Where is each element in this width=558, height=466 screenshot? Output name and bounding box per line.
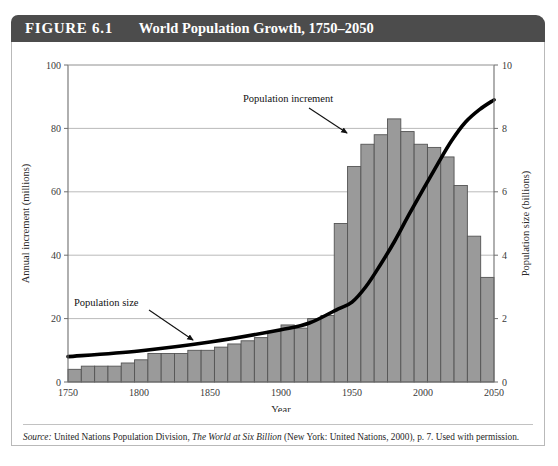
- bar: [214, 347, 227, 382]
- y-tick-label-left: 0: [56, 377, 61, 388]
- bar: [201, 350, 214, 382]
- y-tick-label-right: 8: [502, 123, 507, 134]
- source-text-after: (New York: United Nations, 2000), p. 7. …: [282, 432, 520, 442]
- x-tick-label: 1900: [271, 387, 291, 398]
- bar: [308, 319, 321, 382]
- bar: [481, 277, 494, 382]
- x-tick-label: 1850: [200, 387, 220, 398]
- figure-root: FIGURE 6.1 World Population Growth, 1750…: [0, 0, 558, 466]
- source-publication-title: The World at Six Billion: [192, 432, 282, 442]
- figure-title-bar: FIGURE 6.1 World Population Growth, 1750…: [11, 15, 545, 42]
- bar: [121, 363, 134, 382]
- bar: [241, 341, 254, 382]
- source-label: Source:: [23, 432, 52, 442]
- chart-container: 0204060801000246810175018001850190019502…: [11, 42, 545, 412]
- bar: [228, 344, 241, 382]
- bar: [294, 328, 307, 382]
- bar: [467, 236, 480, 382]
- y-axis-title-left: Annual increment (millions): [20, 163, 32, 283]
- source-note: Source: United Nations Population Divisi…: [23, 431, 538, 443]
- annotation-arrow-population-size: [149, 310, 193, 340]
- bar: [427, 147, 440, 382]
- bar: [254, 338, 267, 382]
- x-tick-label: 2000: [413, 387, 433, 398]
- bar: [95, 366, 108, 382]
- y-tick-label-right: 6: [502, 186, 507, 197]
- y-tick-label-right: 10: [502, 60, 512, 71]
- source-divider: [23, 424, 533, 425]
- bar: [81, 366, 94, 382]
- bar: [175, 353, 188, 382]
- x-tick-label: 1750: [58, 387, 78, 398]
- bar: [281, 325, 294, 382]
- bar: [268, 331, 281, 382]
- x-tick-label: 2050: [484, 387, 504, 398]
- bar: [108, 366, 121, 382]
- annotations: Population incrementPopulation size: [74, 93, 347, 340]
- x-axis-title: Year: [271, 404, 291, 412]
- bar: [401, 132, 414, 382]
- annotation-label-population-increment: Population increment: [243, 93, 333, 104]
- x-tick-label: 1950: [342, 387, 362, 398]
- bar: [348, 166, 361, 382]
- source-text-before: United Nations Population Division,: [52, 432, 192, 442]
- bar: [414, 144, 427, 382]
- bar: [148, 353, 161, 382]
- bar: [161, 353, 174, 382]
- bar: [321, 315, 334, 382]
- y-tick-label-left: 40: [51, 250, 61, 261]
- bar: [68, 369, 81, 382]
- y-tick-label-left: 20: [51, 313, 61, 324]
- bar: [334, 224, 347, 383]
- y-axis-title-right: Population size (billions): [520, 170, 532, 276]
- y-tick-label-right: 0: [502, 377, 507, 388]
- bar: [135, 360, 148, 382]
- annotation-arrow-population-increment: [309, 108, 347, 133]
- population-growth-chart: 0204060801000246810175018001850190019502…: [11, 42, 545, 412]
- figure-title: World Population Growth, 1750–2050: [139, 20, 374, 37]
- bar: [188, 350, 201, 382]
- y-tick-label-left: 60: [51, 186, 61, 197]
- x-tick-label: 1800: [129, 387, 149, 398]
- bar: [441, 157, 454, 382]
- figure-number: FIGURE 6.1: [25, 20, 113, 37]
- bar: [361, 144, 374, 382]
- bar: [454, 185, 467, 382]
- y-tick-label-left: 80: [51, 123, 61, 134]
- y-tick-label-left: 100: [46, 60, 61, 71]
- bar-series-population-increment: [68, 119, 494, 382]
- y-tick-label-right: 4: [502, 250, 507, 261]
- y-tick-label-right: 2: [502, 313, 507, 324]
- annotation-label-population-size: Population size: [74, 297, 139, 308]
